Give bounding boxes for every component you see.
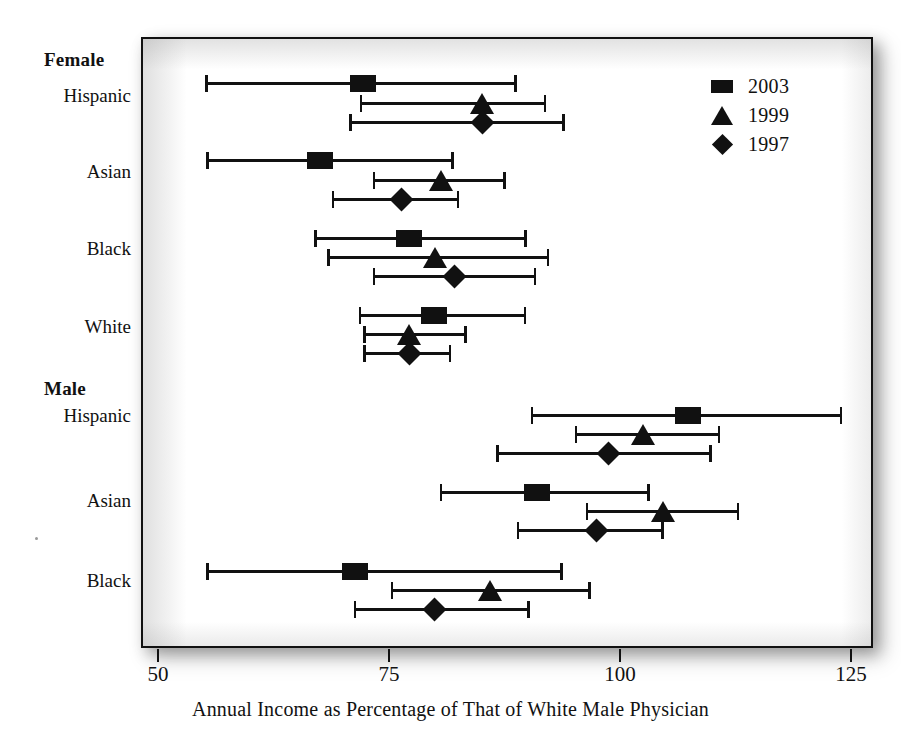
interval-cap-low: [517, 522, 519, 539]
interval-cap-low: [373, 172, 375, 189]
interval-cap-low: [531, 407, 533, 424]
interval-cap-high: [709, 445, 711, 462]
interval-cap-low: [205, 75, 207, 92]
diamond-marker-icon: [596, 441, 620, 465]
interval-row: [575, 433, 720, 436]
interval-row: [206, 159, 454, 162]
forest-plot-figure: Female Hispanic Asian Black White Male H…: [0, 0, 901, 755]
legend-item-1999: 1999: [708, 103, 789, 128]
interval-row: [391, 589, 591, 592]
interval-row: [586, 510, 739, 513]
interval-row: [363, 352, 451, 355]
category-label-female-asian: Asian: [0, 161, 131, 183]
category-label-female-black: Black: [0, 238, 131, 260]
confidence-interval-line: [349, 121, 564, 123]
x-axis-title: Annual Income as Percentage of That of W…: [0, 698, 901, 721]
group-label-female: Female: [44, 49, 104, 71]
interval-cap-high: [562, 114, 564, 131]
triangle-marker-icon: [708, 106, 736, 125]
square-marker-icon: [350, 75, 376, 92]
interval-cap-low: [360, 95, 362, 112]
square-marker-icon: [307, 152, 333, 169]
group-label-male: Male: [44, 378, 86, 400]
triangle-marker-icon: [429, 170, 453, 191]
legend-label-1997: 1997: [748, 133, 789, 156]
interval-row: [206, 570, 563, 573]
triangle-marker-icon: [631, 424, 655, 445]
interval-cap-high: [457, 191, 459, 208]
interval-row: [496, 452, 711, 455]
interval-cap-low: [206, 563, 208, 580]
category-label-male-hispanic: Hispanic: [0, 405, 131, 427]
interval-cap-high: [647, 484, 649, 501]
interval-cap-low: [314, 230, 316, 247]
diamond-marker-icon: [708, 137, 736, 152]
diamond-marker-icon: [422, 597, 446, 621]
square-marker-icon: [675, 407, 701, 424]
legend-item-1997: 1997: [708, 132, 789, 157]
scan-speck: [35, 537, 38, 540]
interval-row: [359, 314, 526, 317]
diamond-marker-icon: [389, 187, 413, 211]
interval-cap-low: [332, 191, 334, 208]
interval-cap-high: [451, 152, 453, 169]
interval-cap-low: [206, 152, 208, 169]
diamond-marker-icon: [584, 518, 608, 542]
interval-cap-high: [840, 407, 842, 424]
plot-area: 2003 1999 1997: [141, 37, 873, 648]
interval-cap-low: [363, 345, 365, 362]
square-marker-icon: [421, 307, 447, 324]
interval-row: [373, 275, 537, 278]
interval-cap-low: [575, 426, 577, 443]
interval-cap-low: [327, 249, 329, 266]
interval-cap-high: [464, 326, 466, 343]
interval-cap-high: [514, 75, 516, 92]
x-tick: [157, 649, 159, 662]
interval-cap-high: [560, 563, 562, 580]
interval-cap-low: [349, 114, 351, 131]
triangle-marker-icon: [478, 580, 502, 601]
category-label-female-hispanic: Hispanic: [0, 85, 131, 107]
interval-cap-low: [354, 601, 356, 618]
category-label-male-black: Black: [0, 570, 131, 592]
interval-row: [314, 237, 527, 240]
diamond-marker-icon: [397, 341, 421, 365]
interval-row: [349, 121, 564, 124]
x-tick-label: 100: [604, 662, 636, 687]
interval-cap-low: [586, 503, 588, 520]
interval-row: [440, 491, 650, 494]
legend-label-1999: 1999: [748, 104, 789, 127]
confidence-interval-line: [206, 570, 563, 572]
interval-cap-high: [588, 582, 590, 599]
interval-row: [373, 179, 506, 182]
square-marker-icon: [342, 563, 368, 580]
x-tick-label: 50: [148, 662, 169, 687]
interval-cap-high: [524, 230, 526, 247]
interval-row: [531, 414, 842, 417]
x-tick-label: 125: [835, 662, 867, 687]
x-tick: [619, 649, 621, 662]
legend: 2003 1999 1997: [708, 74, 789, 161]
interval-cap-high: [503, 172, 505, 189]
interval-cap-high: [737, 503, 739, 520]
x-tick: [388, 649, 390, 662]
legend-label-2003: 2003: [748, 75, 789, 98]
diamond-marker-icon: [470, 110, 494, 134]
interval-row: [327, 256, 549, 259]
interval-row: [517, 529, 664, 532]
interval-cap-low: [391, 582, 393, 599]
interval-cap-low: [363, 326, 365, 343]
interval-cap-low: [496, 445, 498, 462]
triangle-marker-icon: [423, 247, 447, 268]
interval-cap-high: [661, 522, 663, 539]
interval-cap-high: [527, 601, 529, 618]
interval-cap-high: [449, 345, 451, 362]
legend-item-2003: 2003: [708, 74, 789, 99]
interval-cap-low: [440, 484, 442, 501]
confidence-interval-line: [360, 102, 547, 104]
diamond-marker-icon: [443, 264, 467, 288]
interval-cap-high: [524, 307, 526, 324]
interval-row: [363, 333, 466, 336]
interval-row: [205, 82, 516, 85]
interval-cap-low: [359, 307, 361, 324]
